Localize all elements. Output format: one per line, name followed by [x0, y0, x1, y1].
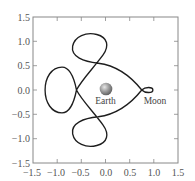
- y-tick-label: 0.5: [18, 60, 31, 71]
- moon-label: Moon: [144, 96, 167, 106]
- y-tick-label: 0.0: [18, 85, 31, 96]
- y-tick-label: −0.5: [12, 109, 30, 120]
- x-tick-label: 1.5: [172, 167, 185, 178]
- y-tick-label: 1.0: [18, 36, 31, 47]
- x-axis-labels: −1.5 −1.0 −0.5 0.0 0.5 1.0 1.5: [23, 167, 184, 178]
- earth-icon: [100, 83, 113, 96]
- y-axis-labels: 1.5 1.0 0.5 0.0 −0.5 −1.0 −1.5: [12, 12, 30, 169]
- x-tick-label: −0.5: [71, 167, 89, 178]
- earth-label: Earth: [95, 96, 116, 106]
- x-tick-label: 0.5: [124, 167, 137, 178]
- trajectory-group: [45, 34, 153, 147]
- x-tick-label: −1.5: [23, 167, 41, 178]
- trajectory-chart: 1.5 1.0 0.5 0.0 −0.5 −1.0 −1.5 −1.5 −1.0…: [0, 0, 195, 181]
- x-tick-label: −1.0: [47, 167, 65, 178]
- x-tick-label: 1.0: [148, 167, 161, 178]
- y-tick-label: 1.5: [18, 12, 31, 23]
- trajectory-curve: [45, 34, 153, 147]
- x-tick-label: 0.0: [100, 167, 113, 178]
- y-tick-label: −1.0: [12, 133, 30, 144]
